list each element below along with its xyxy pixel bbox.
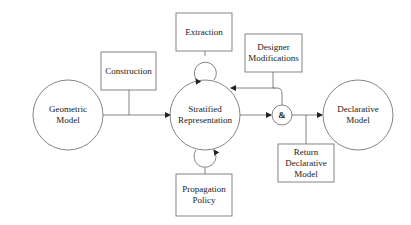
propagation-loop — [194, 150, 216, 167]
declarative-label-line1: Declarative — [337, 104, 378, 115]
extraction-label-text: Extraction — [185, 27, 223, 38]
designer-label-line1: Designer — [257, 42, 290, 53]
return-declarative-model-label: Return Declarative Model — [278, 144, 334, 182]
extraction-loop — [194, 62, 216, 80]
propagation-label-line1: Propagation — [182, 184, 226, 195]
designer-modifications-label: Designer Modifications — [245, 34, 302, 72]
geometric-model-label-line1: Geometric — [49, 104, 87, 115]
return-label-line3: Model — [294, 169, 318, 180]
stratified-representation-label: Stratified Representation — [170, 100, 240, 130]
propagation-label-line2: Policy — [192, 195, 215, 206]
propagation-policy-label: Propagation Policy — [176, 174, 232, 216]
return-label-line1: Return — [294, 147, 319, 158]
construction-label-text: Construction — [105, 66, 152, 77]
geometric-model-label-line2: Model — [56, 115, 80, 126]
declarative-model-label: Declarative Model — [323, 100, 393, 130]
and-junction-label: & — [272, 105, 292, 125]
extraction-label: Extraction — [176, 13, 232, 51]
return-label-line2: Declarative — [285, 158, 326, 169]
and-junction-label-text: & — [278, 110, 286, 121]
stratified-label-line1: Stratified — [188, 104, 222, 115]
designer-label-line2: Modifications — [248, 53, 299, 64]
stratified-label-line2: Representation — [178, 115, 232, 126]
edge-designer-to-and — [273, 88, 282, 105]
geometric-model-label: Geometric Model — [33, 100, 103, 130]
declarative-label-line2: Model — [346, 115, 370, 126]
construction-label: Construction — [101, 52, 156, 90]
